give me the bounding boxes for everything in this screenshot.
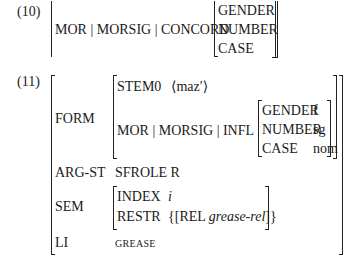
infl-gender-value: f	[313, 104, 318, 118]
li-label: LI	[55, 236, 68, 250]
feature-case: CASE	[218, 42, 254, 56]
outer-right-bracket	[339, 75, 343, 255]
infl-number-value: sg	[313, 123, 325, 137]
infl-case-attr: CASE	[262, 142, 298, 156]
infl-path: MOR | MORSIG | INFL	[117, 124, 254, 138]
infl-gender-attr: GENDER	[262, 104, 319, 118]
restr-close: ]}	[265, 209, 276, 224]
avm-right-bracket	[272, 1, 278, 58]
restr-value: {[REL grease-rel]}	[168, 210, 277, 224]
restr-label: RESTR	[117, 210, 161, 224]
argst-value: SFROLE R	[115, 166, 180, 180]
feature-path: MOR | MORSIG | CONCORD	[55, 23, 229, 37]
example-number-11: (11)	[17, 75, 40, 89]
stem-label: STEM0	[117, 80, 161, 94]
infl-case-value: nom	[313, 142, 338, 156]
restr-open: {[REL	[168, 209, 209, 224]
argst-label: ARG-ST	[55, 166, 106, 180]
example-number-10: (10)	[17, 5, 40, 19]
index-value: i	[168, 190, 172, 204]
feature-gender: GENDER	[218, 4, 275, 18]
form-label: FORM	[55, 112, 95, 126]
sem-label: SEM	[55, 200, 84, 214]
index-label: INDEX	[117, 190, 161, 204]
stem-value: ⟨maz′⟩	[171, 80, 208, 94]
feature-number: NUMBER	[218, 23, 278, 37]
restr-relation: grease-rel	[209, 209, 266, 224]
li-value: GREASE	[115, 239, 156, 249]
